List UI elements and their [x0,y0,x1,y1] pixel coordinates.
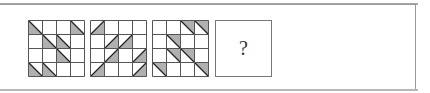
grid-svg [90,20,147,77]
pattern-panel-2 [90,20,146,77]
grid-svg [28,20,85,77]
question-mark: ? [239,37,248,60]
frame-bottom-border [0,89,418,91]
grid-svg [152,20,209,77]
answer-box[interactable]: ? [215,20,272,77]
pattern-panel-3 [152,20,208,77]
pattern-panel-1 [28,20,84,77]
